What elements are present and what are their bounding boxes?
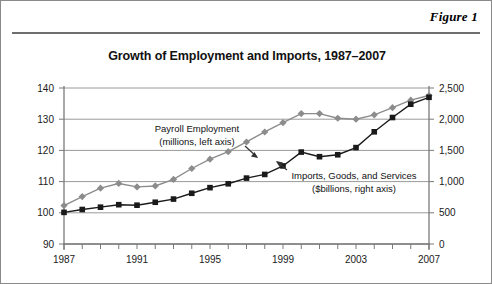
chart-svg: 90100110120130140 05001,0001,5002,0002,5…: [1, 1, 492, 284]
left-axis-tick-label: 110: [38, 176, 54, 187]
data-point-marker: [390, 115, 396, 121]
data-point-marker: [371, 111, 378, 118]
left-axis-tick-labels: 90100110120130140: [37, 83, 54, 250]
data-point-marker: [60, 202, 67, 209]
payroll-employment-annotation: Payroll Employment: [155, 123, 240, 134]
data-point-marker: [353, 145, 359, 151]
x-axis-tick-label: 1991: [126, 254, 149, 265]
left-axis-tick-label: 140: [37, 83, 54, 94]
x-axis-ticks: [64, 244, 429, 249]
right-axis-tick-label: 2,000: [439, 114, 464, 125]
left-axis-tick-label: 100: [37, 207, 54, 218]
x-axis-tick-label: 1995: [199, 254, 222, 265]
data-point-marker: [352, 116, 359, 123]
data-point-marker: [225, 148, 232, 155]
data-point-marker: [279, 119, 286, 126]
data-point-marker: [171, 196, 177, 202]
data-point-marker: [79, 193, 86, 200]
left-axis-tick-label: 130: [37, 114, 54, 125]
imports-annotation-units: ($billions, right axis): [312, 183, 396, 194]
series-annotations: Payroll Employment(millions, left axis)I…: [155, 123, 417, 194]
payroll-employment-annotation-units: (millions, left axis): [159, 136, 235, 147]
x-axis-tick-labels: 198719911995199920032007: [53, 254, 441, 265]
x-axis-tick-label: 1999: [272, 254, 295, 265]
data-point-marker: [426, 94, 432, 100]
data-point-marker: [408, 101, 414, 107]
data-point-marker: [389, 104, 396, 111]
data-point-marker: [371, 129, 377, 135]
left-axis-ticks: [59, 88, 64, 244]
data-point-marker: [262, 172, 268, 178]
data-point-marker: [152, 199, 158, 205]
right-axis-tick-label: 500: [439, 207, 456, 218]
data-point-marker: [98, 204, 104, 210]
data-point-marker: [116, 202, 122, 208]
data-series: [61, 94, 432, 215]
x-axis-tick-label: 2003: [345, 254, 368, 265]
axis-lines: [63, 86, 430, 250]
left-axis-tick-label: 120: [37, 145, 54, 156]
data-point-marker: [225, 181, 231, 187]
data-point-marker: [152, 182, 159, 189]
data-point-marker: [134, 202, 140, 208]
data-point-marker: [206, 156, 213, 163]
right-axis-tick-labels: 05001,0001,5002,0002,500: [439, 83, 464, 250]
data-point-marker: [207, 185, 213, 191]
data-point-marker: [115, 180, 122, 187]
left-axis-tick-label: 90: [43, 239, 55, 250]
data-point-marker: [133, 183, 140, 190]
data-point-marker: [334, 115, 341, 122]
chart-plot-area: 90100110120130140 05001,0001,5002,0002,5…: [1, 1, 492, 284]
series-layer: [60, 92, 432, 215]
data-point-marker: [188, 165, 195, 172]
imports-annotation: Imports, Goods, and Services: [291, 170, 416, 181]
data-point-marker: [79, 207, 85, 213]
data-point-marker: [244, 175, 250, 181]
data-point-marker: [261, 128, 268, 135]
data-point-marker: [97, 185, 104, 192]
data-point-marker: [316, 110, 323, 117]
x-axis-tick-label: 1987: [53, 254, 76, 265]
data-point-marker: [298, 149, 304, 155]
data-point-marker: [61, 210, 67, 216]
right-axis-tick-label: 1,500: [439, 145, 464, 156]
right-axis-tick-label: 2,500: [439, 83, 464, 94]
figure-container: Figure 1 Growth of Employment and Import…: [0, 0, 492, 284]
data-point-marker: [298, 110, 305, 117]
right-axis-tick-label: 0: [439, 239, 445, 250]
data-point-marker: [335, 152, 341, 158]
right-axis-ticks: [429, 88, 434, 244]
right-axis-tick-label: 1,000: [439, 176, 464, 187]
x-axis-tick-label: 2007: [418, 254, 441, 265]
data-point-marker: [189, 190, 195, 196]
data-point-marker: [317, 154, 323, 160]
data-point-marker: [243, 138, 250, 145]
